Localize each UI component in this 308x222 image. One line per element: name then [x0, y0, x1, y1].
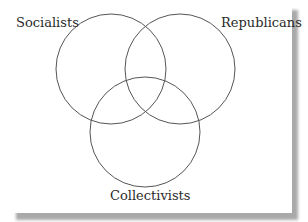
- republicans-circle: [125, 14, 235, 124]
- collectivists-label: Collectivists: [110, 188, 191, 203]
- republicans-label: Republicans: [221, 15, 302, 30]
- socialists-label: Socialists: [16, 15, 79, 30]
- socialists-circle: [56, 14, 166, 124]
- collectivists-circle: [90, 77, 200, 187]
